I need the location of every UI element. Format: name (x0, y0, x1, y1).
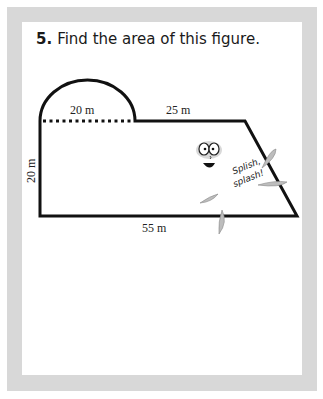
composite-figure: 20 m 25 m 20 m 55 m Splish, splash! (0, 0, 323, 399)
mascot-face-icon (196, 141, 222, 168)
label-left-height: 20 m (24, 158, 38, 183)
figure-outline (40, 80, 297, 216)
label-top-right: 25 m (166, 103, 191, 117)
label-semicircle-diameter: 20 m (70, 103, 95, 117)
label-bottom: 55 m (142, 221, 167, 235)
